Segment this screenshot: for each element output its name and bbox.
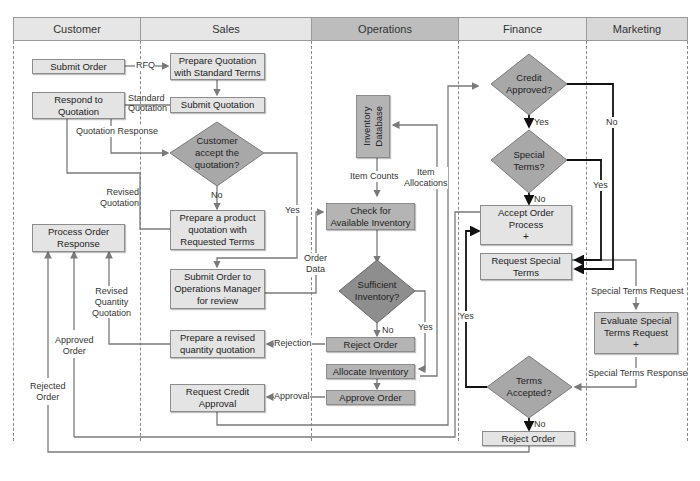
process-submit-quotation: Submit Quotation	[170, 97, 265, 113]
flow-label-no-inventory: No	[382, 325, 394, 336]
flow-label-item-counts: Item Counts	[350, 171, 399, 182]
process-submit-order: Submit Order	[32, 59, 125, 74]
decision-credit-approved-label: Credit Approved?	[497, 69, 561, 99]
process-check-inventory: Check for Available Inventory	[326, 203, 415, 230]
subprocess-marker-icon: +	[523, 231, 529, 244]
decision-special-terms-label: Special Terms?	[497, 146, 561, 176]
flow-label-no-terms: No	[534, 419, 546, 430]
process-request-special-terms: Request Special Terms	[480, 253, 572, 280]
flow-label-no-credit: No	[606, 117, 618, 128]
flow-label-rfq: RFQ	[136, 60, 155, 71]
process-prepare-product-quotation: Prepare a product quotation with Request…	[170, 210, 265, 250]
flow-label-yes-special: Yes	[593, 180, 608, 191]
process-accept-order: Accept Order Process +	[480, 205, 572, 245]
process-order-response: Process Order Response	[32, 224, 125, 252]
process-reject-order-ops: Reject Order	[326, 337, 415, 352]
process-respond-to-quotation: Respond to Quotation	[32, 92, 125, 119]
process-request-credit-approval: Request Credit Approval	[170, 384, 265, 412]
flow-label-revised-quotation: Revised Quotation	[100, 187, 139, 209]
flow-label-rejection: Rejection	[274, 338, 312, 349]
process-prepare-revised-quantity: Prepare a revised quantity quotation	[170, 330, 265, 358]
subprocess-marker-icon: +	[633, 339, 639, 352]
process-prepare-quotation: Prepare Quotation with Standard Terms	[170, 53, 265, 80]
evaluate-special-label: Evaluate Special Terms Request	[601, 315, 672, 339]
flow-label-yes-credit: Yes	[534, 117, 549, 128]
flow-label-rejected-order: Rejected Order	[30, 381, 66, 403]
flow-label-no-customer: No	[211, 190, 223, 201]
decision-terms-accepted-label: Terms Accepted?	[497, 372, 561, 402]
process-reject-order-finance: Reject Order	[482, 431, 575, 446]
flow-label-yes-customer: Yes	[285, 205, 300, 216]
flow-label-approved-order: Approved Order	[55, 335, 94, 357]
decision-customer-accept-label: Customer accept the quotation?	[182, 133, 252, 173]
flow-label-yes-terms: Yes	[459, 311, 474, 322]
flow-label-standard-quotation: Standard Quotation	[128, 93, 167, 114]
accept-order-label: Accept Order Process	[498, 207, 554, 231]
flow-label-revised-quantity-quotation: Revised Quantity Quotation	[92, 286, 131, 318]
process-approve-order: Approve Order	[326, 390, 415, 405]
flow-label-special-terms-response: Special Terms Response	[588, 368, 687, 379]
flow-label-order-data: Order Data	[304, 253, 327, 275]
process-evaluate-special-terms: Evaluate Special Terms Request +	[594, 312, 678, 354]
flow-label-yes-inventory: Yes	[418, 322, 433, 333]
flow-label-quotation-response: Quotation Response	[76, 126, 158, 137]
decision-sufficient-inventory-label: Sufficient Inventory?	[345, 276, 409, 306]
process-allocate-inventory: Allocate Inventory	[326, 364, 415, 379]
flow-label-approval: Approval	[274, 391, 310, 402]
flow-label-no-special: No	[534, 194, 546, 205]
inventory-database-label: Inventory Database	[361, 106, 385, 147]
flow-label-item-allocations: Item Allocations	[404, 167, 448, 189]
flow-label-special-terms-request: Special Terms Request	[591, 286, 683, 297]
datastore-inventory-database: Inventory Database	[356, 95, 390, 158]
process-submit-order-to-ops: Submit Order to Operations Manager for r…	[170, 269, 265, 309]
